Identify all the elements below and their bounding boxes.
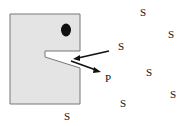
substrate-entry-arrow [73,51,109,61]
enzyme-diagram: S S S P S S S S [0,0,187,126]
substrate-label: S [120,98,126,109]
enzyme-dark-spot [61,24,71,37]
product-label: P [105,73,111,84]
substrate-label: S [170,89,176,100]
substrate-label: S [118,41,124,52]
substrate-label: S [140,7,146,18]
diagram-graphic [0,0,187,126]
substrate-label: S [146,67,152,78]
substrate-label: S [64,111,70,122]
substrate-label: S [168,29,174,40]
